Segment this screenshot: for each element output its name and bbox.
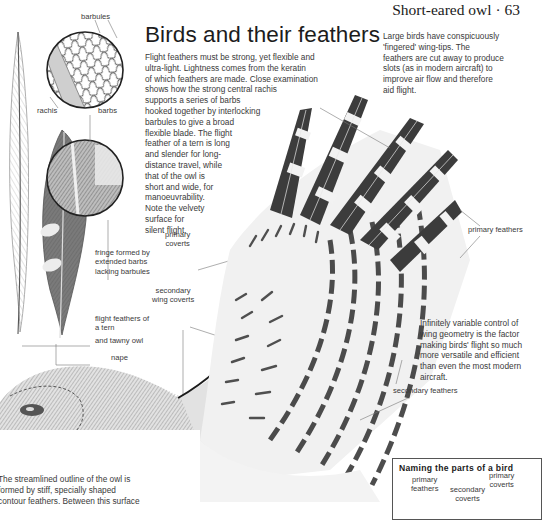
label-flight-feathers: flight feathers of a tern (95, 314, 149, 333)
text-line: Flight feathers must be strong, yet flex… (145, 52, 318, 63)
box-label-primary-coverts: primary coverts (489, 471, 514, 490)
text-line: improve air flow and therefore (383, 74, 504, 85)
label-barbules: barbules (81, 12, 110, 21)
text-line: slots (as in modern aircraft) to (383, 63, 504, 74)
outline-paragraph: The streamlined outline of the owl is fo… (0, 474, 140, 506)
label-line: primary (165, 230, 190, 239)
label-secondary-wing-coverts: secondary wing coverts (152, 286, 194, 305)
text-line: more versatile and efficient (420, 350, 522, 361)
text-line: ultra-light. Lightness comes from the ke… (145, 63, 318, 74)
label-line: feathers (411, 484, 438, 493)
text-line: hooked together by interlocking (145, 106, 318, 117)
text-line: making birds' flight so much (420, 340, 522, 351)
parts-of-bird-box: Naming the parts of a bird primary feath… (392, 458, 542, 520)
text-line: contour feathers. Between this surface (0, 496, 140, 507)
text-line: aid flight. (383, 85, 504, 96)
text-line: distance travel, while (145, 160, 318, 171)
page-title: Birds and their feathers (145, 22, 380, 48)
label-line: primary (411, 475, 438, 484)
running-head: Short-eared owl · 63 (392, 1, 520, 19)
text-line: 'fingered' wing-tips. The (383, 42, 504, 53)
label-barbs: barbs (98, 106, 117, 115)
text-line: wing geometry is the factor (420, 329, 522, 340)
label-line: coverts (489, 480, 514, 489)
box-label-primary-feathers: primary feathers (411, 475, 438, 494)
label-line: flight feathers of (95, 314, 149, 323)
label-line: primary (489, 471, 514, 480)
label-primary-coverts: primary coverts (165, 230, 190, 249)
label-fringe: fringe formed by extended barbs lacking … (95, 248, 150, 276)
text-line: aircraft. (420, 372, 522, 383)
label-line: lacking barbules (95, 267, 150, 276)
text-line: and slender for long- (145, 149, 318, 160)
text-line: feather of a tern is long (145, 138, 318, 149)
text-line: Large birds have conspicuously (383, 31, 504, 42)
text-line: barbules to give a broad (145, 117, 318, 128)
label-line: fringe formed by (95, 248, 150, 257)
text-line: that of the owl is (145, 171, 318, 182)
box-label-secondary-coverts: secondary coverts (450, 485, 485, 504)
text-line: formed by stiff, specially shaped (0, 485, 140, 496)
label-rachis: rachis (37, 106, 57, 115)
label-line: coverts (165, 239, 190, 248)
text-line: surface for (145, 214, 318, 225)
wingtip-paragraph: Large birds have conspicuously 'fingered… (383, 31, 504, 96)
label-line: extended barbs (95, 257, 150, 266)
text-line: feathers are cut away to produce (383, 53, 504, 64)
tern-feather (10, 32, 29, 334)
text-line: manoeuvrability. (145, 192, 318, 203)
text-line: short and wide, for (145, 182, 318, 193)
label-line: coverts (450, 494, 485, 503)
text-line: supports a series of barbs (145, 95, 318, 106)
geometry-paragraph: Infinitely variable control of wing geom… (420, 318, 522, 383)
text-line: Infinitely variable control of (420, 318, 522, 329)
intro-paragraph: Flight feathers must be strong, yet flex… (145, 52, 318, 236)
label-primary-feathers: primary feathers (468, 225, 523, 234)
text-line: than even the most modern (420, 361, 522, 372)
text-line: The streamlined outline of the owl is (0, 474, 140, 485)
text-line: flexible blade. The flight (145, 128, 318, 139)
text-line: of which feathers are made. Close examin… (145, 74, 318, 85)
label-tawny-owl: and tawny owl (95, 336, 143, 345)
label-secondary-feathers: secondary feathers (393, 386, 458, 395)
label-line: secondary (450, 485, 485, 494)
label-line: wing coverts (152, 295, 194, 304)
label-line: a tern (95, 323, 149, 332)
label-line: secondary (152, 286, 194, 295)
text-line: Note the velvety (145, 203, 318, 214)
text-line: shows how the strong central rachis (145, 84, 318, 95)
label-nape: nape (111, 353, 128, 362)
